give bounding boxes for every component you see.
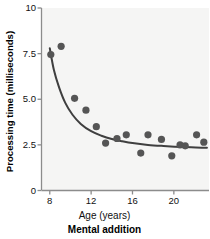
data-point [102, 139, 109, 146]
chart-figure: 02.55.07.510 8121620 Processing time (mi… [0, 0, 209, 239]
data-point [200, 139, 207, 146]
x-tick-label: 8 [39, 196, 61, 206]
x-axis-title: Age (years) [0, 210, 209, 221]
data-point [58, 43, 65, 50]
x-tick-label: 12 [80, 196, 102, 206]
axis-ticks [38, 8, 174, 195]
data-point [168, 152, 175, 159]
data-point [182, 142, 189, 149]
data-point [158, 136, 165, 143]
x-tick-label: 16 [121, 196, 143, 206]
data-point [123, 131, 130, 138]
data-point [193, 131, 200, 138]
x-tick-label: 20 [163, 196, 185, 206]
chart-caption: Mental addition [0, 224, 209, 235]
data-point [113, 135, 120, 142]
data-point [93, 123, 100, 130]
y-axis-title: Processing time (milliseconds) [4, 19, 15, 185]
axes [42, 8, 210, 191]
data-point [71, 95, 78, 102]
data-point [144, 131, 151, 138]
data-point [47, 51, 54, 58]
data-point [82, 107, 89, 114]
y-tick-label: 0 [8, 186, 36, 196]
data-point [137, 149, 144, 156]
y-tick-label: 10 [8, 3, 36, 13]
